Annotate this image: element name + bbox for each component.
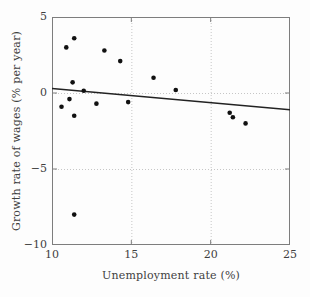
- x-tick-label: 25: [275, 248, 305, 262]
- data-point: [72, 212, 77, 217]
- y-tick-label: 5: [17, 10, 47, 24]
- plot-frame: [53, 18, 290, 245]
- data-point: [72, 36, 77, 41]
- x-axis-title: Unemployment rate (%): [52, 269, 290, 282]
- data-point: [126, 100, 131, 105]
- wage-unemployment-scatter-figure: Growth rate of wages (% per year) 101520…: [0, 0, 310, 297]
- y-tick-label: −10: [17, 238, 47, 252]
- data-point: [227, 110, 232, 115]
- data-point: [118, 59, 123, 64]
- y-tick-label: 0: [17, 86, 47, 100]
- regression-line: [52, 88, 290, 109]
- data-point: [67, 97, 72, 102]
- data-point: [102, 48, 107, 53]
- x-tick-label: 20: [196, 248, 226, 262]
- data-point: [173, 88, 178, 93]
- plot-canvas: [52, 17, 290, 245]
- data-point: [70, 80, 75, 85]
- y-axis-title: Growth rate of wages (% per year): [10, 31, 23, 231]
- plot-area: [52, 17, 290, 245]
- data-point: [94, 101, 99, 106]
- data-point: [243, 121, 248, 126]
- x-tick-label: 15: [116, 248, 146, 262]
- data-point: [72, 114, 77, 119]
- data-point: [81, 88, 86, 93]
- data-point: [59, 104, 64, 109]
- data-point: [151, 76, 156, 81]
- data-point: [231, 115, 236, 120]
- y-tick-label: −5: [17, 162, 47, 176]
- data-point: [64, 45, 69, 50]
